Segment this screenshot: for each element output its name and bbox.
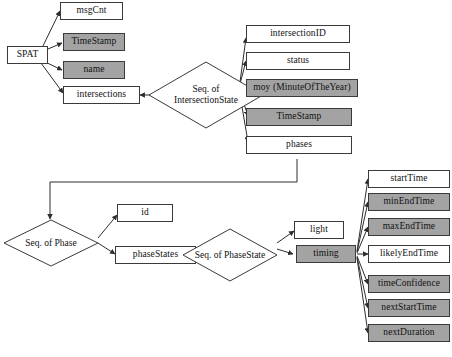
node-label: moy (MinuteOfTheYear) (253, 83, 350, 93)
node-label: status (287, 56, 309, 66)
node-intersectionid[interactable]: intersectionID (246, 25, 350, 43)
node-timing[interactable]: timing (296, 245, 356, 263)
node-label: light (310, 225, 328, 235)
node-status[interactable]: status (246, 52, 350, 70)
node-timestamp-spat[interactable]: TimeStamp (63, 33, 125, 51)
node-minendtime[interactable]: minEndTime (368, 193, 450, 211)
node-nextstarttime[interactable]: nextStartTime (368, 299, 450, 317)
diamond-label-line2: IntersectionState (174, 95, 238, 106)
diamond-seq-of-phasestate[interactable]: Seq. of PhaseState (182, 228, 278, 282)
node-name[interactable]: name (63, 61, 125, 79)
node-nextduration[interactable]: nextDuration (368, 324, 450, 342)
node-moy[interactable]: moy (MinuteOfTheYear) (246, 79, 358, 97)
diamond-label-line1: Seq. of Phase (25, 238, 76, 249)
node-label: intersectionID (270, 29, 326, 39)
node-label: id (141, 208, 149, 218)
diamond-label: Seq. of Phase (3, 219, 99, 267)
node-label: TimeStamp (277, 112, 322, 122)
node-label: msgCnt (76, 6, 106, 16)
node-label: timing (313, 249, 338, 259)
spat-structure-diagram: SPAT msgCnt TimeStamp name intersections… (0, 0, 452, 357)
node-label: phases (286, 140, 312, 150)
node-starttime[interactable]: startTime (368, 170, 450, 188)
node-timeconfidence[interactable]: timeConfidence (368, 275, 450, 293)
node-label: phaseStates (133, 250, 178, 260)
node-maxendtime[interactable]: maxEndTime (368, 218, 450, 236)
node-label: maxEndTime (383, 222, 435, 232)
diamond-label-line1: Seq. of PhaseState (195, 250, 265, 261)
node-msgcnt[interactable]: msgCnt (60, 2, 123, 20)
node-label: startTime (391, 174, 428, 184)
node-spat[interactable]: SPAT (7, 46, 48, 64)
node-light[interactable]: light (294, 221, 344, 239)
node-label: TimeStamp (72, 37, 117, 47)
node-id[interactable]: id (117, 204, 173, 222)
node-likelyendtime[interactable]: likelyEndTime (368, 245, 450, 263)
node-phases[interactable]: phases (246, 136, 352, 154)
node-label: timeConfidence (378, 279, 440, 289)
node-label: SPAT (17, 50, 39, 60)
node-label: minEndTime (384, 197, 435, 207)
node-timestamp-intersection[interactable]: TimeStamp (246, 108, 352, 126)
node-label: nextStartTime (381, 303, 436, 313)
node-intersections[interactable]: intersections (63, 86, 140, 104)
diamond-label: Seq. of PhaseState (182, 228, 278, 282)
diamond-label-line1: Seq. of (193, 84, 220, 95)
node-label: intersections (77, 90, 126, 100)
node-label: nextDuration (383, 328, 434, 338)
node-label: likelyEndTime (380, 249, 438, 259)
node-label: name (84, 65, 105, 75)
diamond-seq-of-phase[interactable]: Seq. of Phase (3, 219, 99, 267)
